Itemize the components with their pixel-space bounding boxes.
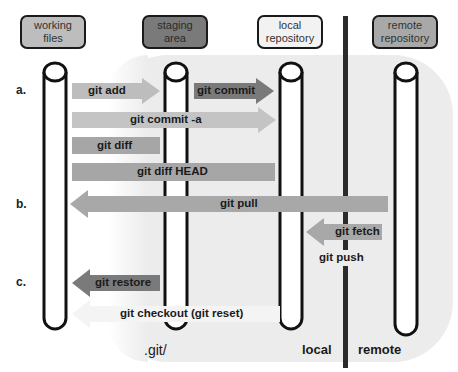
git-restore-label: git restore bbox=[95, 276, 151, 288]
zone-label-local: local bbox=[302, 342, 332, 357]
header-remote-repository-line2: repository bbox=[381, 32, 429, 44]
git-push-label: git push bbox=[319, 251, 364, 263]
git-checkout-label: git checkout (git reset) bbox=[120, 307, 243, 319]
header-remote-repository-line1: remote bbox=[388, 19, 422, 31]
row-label-c: c. bbox=[16, 275, 26, 289]
git-fetch-label: git fetch bbox=[335, 225, 380, 237]
zone-label-git-dir: .git/ bbox=[144, 342, 167, 358]
git-pull-label: git pull bbox=[220, 197, 258, 209]
tube-working-files-icon bbox=[41, 60, 69, 332]
tube-remote-repository-icon bbox=[392, 60, 420, 338]
header-staging-area: stagingarea bbox=[142, 15, 208, 49]
git-add-label: git add bbox=[88, 84, 126, 96]
git-commit-label: git commit bbox=[197, 84, 255, 96]
header-remote-repository: remoterepository bbox=[372, 15, 438, 49]
header-staging-area-line2: area bbox=[164, 32, 186, 44]
row-label-a: a. bbox=[16, 83, 26, 97]
header-working-files-line2: files bbox=[43, 32, 63, 44]
header-local-repository: localrepository bbox=[257, 15, 323, 49]
header-working-files: workingfiles bbox=[20, 15, 86, 49]
git-diff-label: git diff bbox=[97, 139, 132, 151]
git-commit-a-label: git commit -a bbox=[130, 113, 202, 125]
header-local-repository-line2: repository bbox=[266, 32, 314, 44]
zone-label-remote: remote bbox=[358, 342, 401, 357]
git-diff-head-label: git diff HEAD bbox=[137, 165, 208, 177]
header-working-files-line1: working bbox=[34, 19, 72, 31]
row-label-b: b. bbox=[16, 197, 27, 211]
header-staging-area-line1: staging bbox=[157, 19, 192, 31]
header-local-repository-line1: local bbox=[279, 19, 302, 31]
